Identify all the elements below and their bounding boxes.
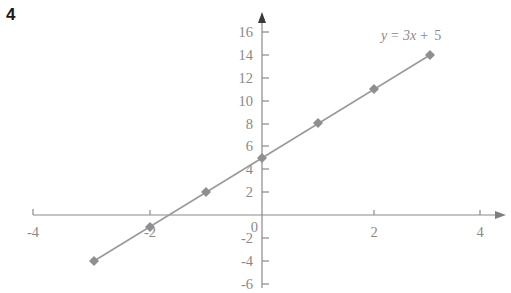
- y-tick-label: 12: [239, 70, 254, 86]
- y-tick-label: 10: [239, 93, 254, 109]
- equation-slope-term: 3x: [402, 28, 417, 43]
- data-point-marker: [257, 153, 267, 163]
- equation-label: y=3x+5: [379, 28, 441, 43]
- data-point-marker: [201, 187, 211, 197]
- x-tick-label: 4: [476, 224, 484, 240]
- equation-intercept: 5: [434, 28, 441, 43]
- y-tick-label: 16: [239, 24, 254, 40]
- y-tick-label: 6: [246, 138, 253, 154]
- equation-plus: +: [420, 28, 428, 43]
- y-tick-label: 8: [246, 116, 253, 132]
- y-tick-label: -6: [241, 276, 253, 292]
- data-point-marker: [89, 256, 99, 266]
- equation-y: y: [379, 28, 388, 43]
- graph-figure: -4 -2 2 4 16 14 12 10 8 6 4 2 0 -2 -4 -6: [0, 0, 511, 293]
- equation-equals: =: [391, 28, 399, 43]
- x-tick-label: 2: [370, 224, 377, 240]
- y-axis-arrow-icon: [258, 12, 266, 23]
- x-axis-arrow-icon: [495, 211, 506, 219]
- y-axis-tick-labels: 16 14 12 10 8 6 4 2 0 -2 -4 -6: [239, 24, 259, 292]
- y-tick-label: 2: [246, 184, 253, 200]
- y-tick-label: -4: [241, 253, 254, 269]
- x-tick-label: -4: [27, 224, 40, 240]
- data-point-marker: [425, 50, 435, 60]
- y-tick-label: -2: [241, 230, 253, 246]
- x-axis-ticks: [150, 210, 480, 215]
- y-tick-label: 14: [239, 47, 254, 63]
- data-point-marker: [369, 84, 379, 94]
